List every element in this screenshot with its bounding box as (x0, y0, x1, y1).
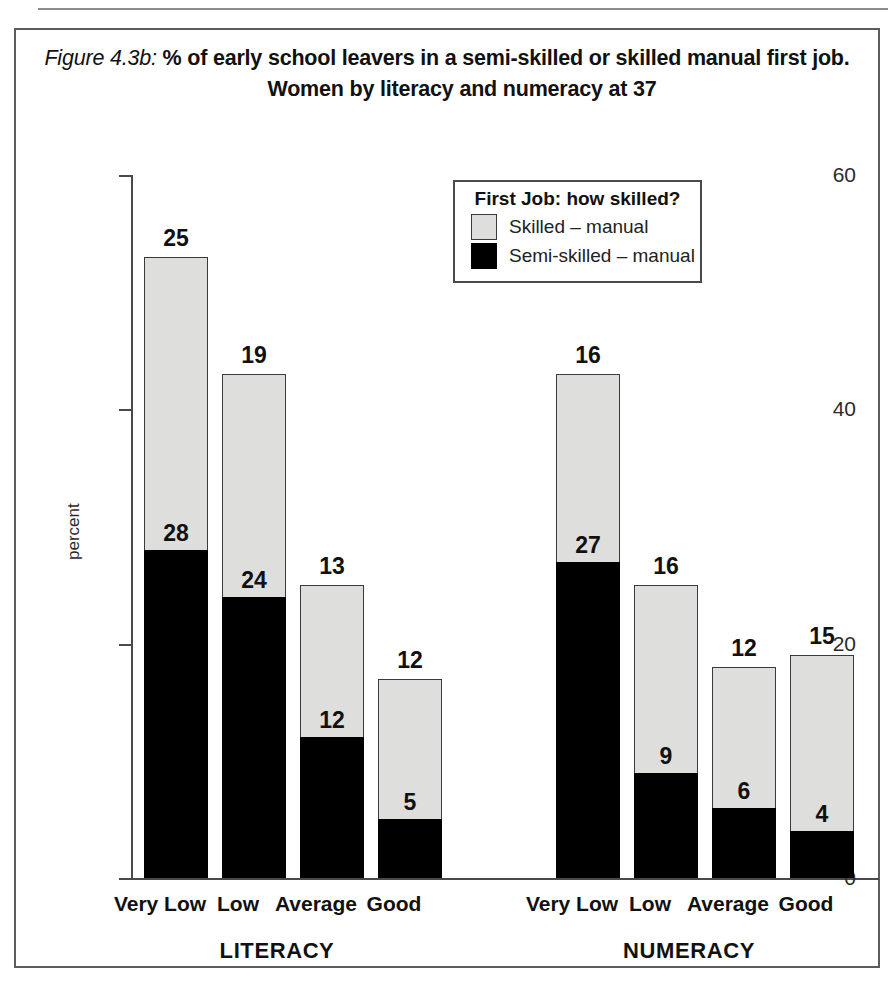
group-label-literacy: LITERACY (220, 938, 335, 964)
bar-value-semi-skilled: 9 (634, 743, 698, 770)
bar-literacy-average[interactable]: 1312 (300, 585, 364, 878)
bar-segment-skilled[interactable]: 25 (144, 257, 208, 550)
legend-label-semi-skilled: Semi-skilled – manual (509, 245, 695, 267)
bar-value-skilled: 16 (557, 342, 619, 369)
y-tick-0 (119, 878, 132, 880)
bar-value-skilled: 16 (635, 553, 697, 580)
bar-value-semi-skilled: 27 (556, 532, 620, 559)
x-label-numeracy-very-low: Very Low (526, 892, 618, 916)
legend-box: First Job: how skilled? Skilled – manual… (453, 180, 702, 283)
y-tick-label-60: 60 (833, 163, 856, 187)
legend-swatch-skilled-icon (471, 214, 497, 240)
x-label-numeracy-low: Low (629, 892, 671, 916)
bar-value-semi-skilled: 6 (712, 778, 776, 805)
bar-value-skilled: 12 (379, 647, 441, 674)
figure-title-block: Figure 4.3b: % of early school leavers i… (16, 46, 878, 102)
x-axis-line (131, 878, 879, 880)
bar-segment-semi-skilled[interactable] (790, 831, 854, 878)
y-tick-60 (119, 175, 132, 177)
bar-value-semi-skilled: 24 (222, 567, 286, 594)
bar-segment-semi-skilled[interactable] (634, 773, 698, 878)
bar-segment-semi-skilled[interactable] (222, 597, 286, 878)
figure-frame: Figure 4.3b: % of early school leavers i… (14, 28, 880, 968)
bar-value-skilled: 15 (791, 623, 853, 650)
figure-title-line-1: Figure 4.3b: % of early school leavers i… (16, 46, 878, 71)
bar-literacy-good[interactable]: 125 (378, 679, 442, 878)
bar-numeracy-very-low[interactable]: 1627 (556, 374, 620, 878)
legend-item-semi-skilled: Semi-skilled – manual (471, 243, 690, 269)
x-label-numeracy-good: Good (779, 892, 834, 916)
bar-value-skilled: 25 (145, 225, 207, 252)
bar-value-semi-skilled: 5 (378, 789, 442, 816)
bar-segment-skilled[interactable]: 19 (222, 374, 286, 597)
figure-title-text: % of early school leavers in a semi-skil… (163, 46, 850, 70)
legend-label-skilled: Skilled – manual (509, 216, 648, 238)
top-rule-divider (38, 8, 888, 10)
bar-numeracy-low[interactable]: 169 (634, 585, 698, 878)
bar-segment-semi-skilled[interactable] (144, 550, 208, 878)
y-tick-40 (119, 409, 132, 411)
y-axis-line (131, 175, 133, 878)
bar-segment-semi-skilled[interactable] (556, 562, 620, 878)
legend-item-skilled: Skilled – manual (471, 214, 690, 240)
figure-title-line-2: Women by literacy and numeracy at 37 (16, 77, 878, 102)
y-axis-title: percent (64, 503, 84, 560)
figure-page: Figure 4.3b: % of early school leavers i… (0, 0, 888, 991)
bar-numeracy-average[interactable]: 126 (712, 667, 776, 878)
bar-segment-semi-skilled[interactable] (378, 819, 442, 878)
bar-value-semi-skilled: 28 (144, 520, 208, 547)
y-tick-label-40: 40 (833, 397, 856, 421)
bar-literacy-very-low[interactable]: 2528 (144, 257, 208, 878)
bar-literacy-low[interactable]: 1924 (222, 374, 286, 878)
bar-value-skilled: 19 (223, 342, 285, 369)
legend-swatch-semi-skilled-icon (471, 243, 497, 269)
x-label-literacy-very-low: Very Low (114, 892, 206, 916)
y-tick-20 (119, 644, 132, 646)
legend-title: First Job: how skilled? (465, 188, 690, 210)
bar-segment-semi-skilled[interactable] (300, 737, 364, 878)
x-label-numeracy-average: Average (687, 892, 769, 916)
bar-segment-semi-skilled[interactable] (712, 808, 776, 878)
bar-value-semi-skilled: 4 (790, 801, 854, 828)
bar-value-skilled: 13 (301, 553, 363, 580)
bar-numeracy-good[interactable]: 154 (790, 655, 854, 878)
x-label-literacy-average: Average (275, 892, 357, 916)
figure-number-label: Figure 4.3b: (44, 46, 156, 70)
group-label-numeracy: NUMERACY (623, 938, 755, 964)
x-label-literacy-good: Good (367, 892, 422, 916)
x-label-literacy-low: Low (217, 892, 259, 916)
bar-value-semi-skilled: 12 (300, 707, 364, 734)
bar-value-skilled: 12 (713, 635, 775, 662)
